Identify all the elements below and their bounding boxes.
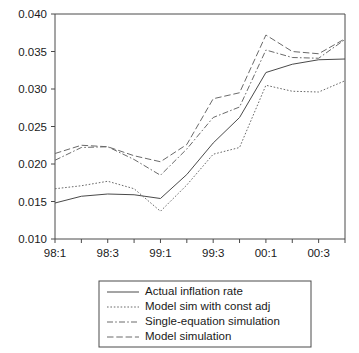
y-tick-label: 0.015 [18,196,47,208]
legend-entry-label-3: Single-equation simulation [145,315,280,327]
x-tick-label: 99:3 [202,247,224,259]
y-axis-tick-labels: 0.0100.0150.0200.0250.0300.0350.040 [18,8,47,245]
y-tick-label: 0.025 [18,121,47,133]
y-tick-label: 0.035 [18,46,47,58]
x-axis-ticks [55,239,345,243]
series-line-2 [55,81,345,212]
inflation-forecast-chart: 0.0100.0150.0200.0250.0300.0350.040 98:1… [0,0,359,353]
legend-entry-label-2: Model sim with const adj [145,300,270,312]
y-tick-label: 0.020 [18,158,47,170]
axis-frame-path [55,14,345,239]
x-tick-label: 99:1 [149,247,171,259]
x-axis-tick-labels: 98:198:399:199:300:100:3 [44,247,330,259]
y-axis-ticks [51,14,55,239]
x-tick-label: 98:1 [44,247,66,259]
y-tick-label: 0.040 [18,8,47,20]
legend-entry-label-1: Actual inflation rate [145,285,243,297]
x-tick-label: 00:3 [307,247,329,259]
chart-legend: Actual inflation rateModel sim with cons… [99,281,311,347]
series-line-4 [55,35,345,162]
chart-canvas: 0.0100.0150.0200.0250.0300.0350.040 98:1… [0,0,359,353]
legend-entry-label-4: Model simulation [145,330,231,342]
series-line-1 [55,59,345,203]
plot-area-frame [55,14,345,239]
y-tick-label: 0.010 [18,233,47,245]
data-series-group [55,35,345,211]
x-tick-label: 00:1 [255,247,277,259]
y-tick-label: 0.030 [18,83,47,95]
x-tick-label: 98:3 [97,247,119,259]
series-line-3 [55,40,345,176]
